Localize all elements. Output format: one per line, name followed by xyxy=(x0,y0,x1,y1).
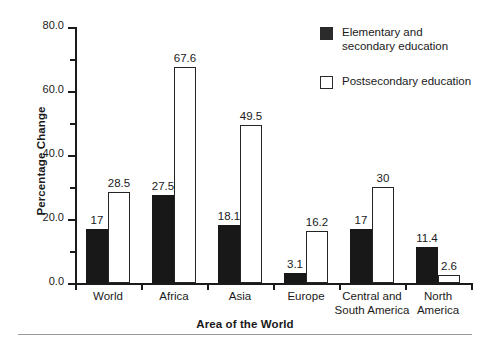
bar-north-america-postsecondary: 2.6 xyxy=(438,275,460,283)
x-tick-0 xyxy=(75,283,77,290)
y-tick-minor-10 xyxy=(70,251,76,253)
legend-swatch-elementary-icon xyxy=(320,27,333,40)
y-tick-20: 20.0 xyxy=(68,219,76,221)
x-tick-1 xyxy=(141,283,143,290)
y-tick-label-80: 80.0 xyxy=(24,19,64,31)
bar-value-north-america-elementary: 11.4 xyxy=(416,232,438,244)
x-tick-4 xyxy=(339,283,341,290)
x-axis-title: Area of the World xyxy=(0,318,490,330)
bar-value-africa-elementary: 27.5 xyxy=(152,180,174,192)
legend-label-postsecondary: Postsecondary education xyxy=(342,75,471,89)
y-tick-label-60: 60.0 xyxy=(24,83,64,95)
y-tick-minor-30 xyxy=(70,187,76,189)
category-label-line: North xyxy=(383,290,490,304)
bar-africa-postsecondary: 67.6 xyxy=(174,67,196,283)
legend-item-elementary: Elementary and secondary education xyxy=(320,26,471,53)
bar-value-central-and-south-america-postsecondary: 30 xyxy=(377,172,390,184)
bar-value-europe-elementary: 3.1 xyxy=(287,258,303,270)
x-tick-5 xyxy=(405,283,407,290)
bar-chart-figure: Percentage Change 0.020.040.060.080.0 17… xyxy=(0,0,490,350)
bar-value-asia-postsecondary: 49.5 xyxy=(240,110,262,122)
bar-africa-elementary: 27.5 xyxy=(152,195,174,283)
y-tick-label-0: 0.0 xyxy=(24,275,64,287)
category-label-north-america: NorthAmerica xyxy=(383,290,490,317)
bar-value-central-and-south-america-elementary: 17 xyxy=(355,214,368,226)
x-tick-2 xyxy=(207,283,209,290)
y-tick-label-20: 20.0 xyxy=(24,211,64,223)
y-tick-minor-50 xyxy=(70,123,76,125)
legend-swatch-postsecondary-icon xyxy=(320,76,333,89)
legend-item-postsecondary: Postsecondary education xyxy=(320,75,471,89)
bar-value-world-elementary: 17 xyxy=(91,214,104,226)
bar-value-africa-postsecondary: 67.6 xyxy=(174,52,196,64)
y-axis-title: Percentage Change xyxy=(35,71,47,251)
bar-value-world-postsecondary: 28.5 xyxy=(108,177,130,189)
bar-world-elementary: 17 xyxy=(86,229,108,283)
y-tick-label-40: 40.0 xyxy=(24,147,64,159)
y-tick-60: 60.0 xyxy=(68,91,76,93)
bottom-divider xyxy=(18,334,472,335)
bar-central-and-south-america-postsecondary: 30 xyxy=(372,187,394,283)
bar-asia-postsecondary: 49.5 xyxy=(240,125,262,283)
bar-value-europe-postsecondary: 16.2 xyxy=(306,216,328,228)
bar-europe-postsecondary: 16.2 xyxy=(306,231,328,283)
y-tick-minor-70 xyxy=(70,59,76,61)
x-tick-3 xyxy=(273,283,275,290)
bar-europe-elementary: 3.1 xyxy=(284,273,306,283)
bar-north-america-elementary: 11.4 xyxy=(416,247,438,283)
legend: Elementary and secondary education Posts… xyxy=(320,26,471,111)
legend-label-elementary: Elementary and secondary education xyxy=(342,26,448,53)
bar-central-and-south-america-elementary: 17 xyxy=(350,229,372,283)
bar-value-north-america-postsecondary: 2.6 xyxy=(441,260,457,272)
y-tick-40: 40.0 xyxy=(68,155,76,157)
x-tick-6 xyxy=(471,283,473,290)
bar-asia-elementary: 18.1 xyxy=(218,225,240,283)
y-tick-80: 80.0 xyxy=(68,27,76,29)
bar-world-postsecondary: 28.5 xyxy=(108,192,130,283)
category-label-line: America xyxy=(383,304,490,318)
bar-value-asia-elementary: 18.1 xyxy=(218,210,240,222)
